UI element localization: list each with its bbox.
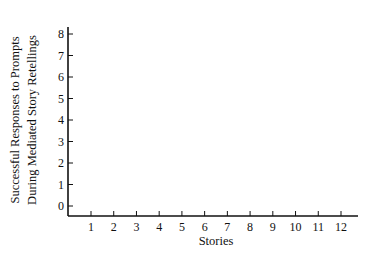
y-tick-label: 8 [58,27,64,41]
x-tick-label: 2 [111,220,117,234]
chart: Successful Responses to PromptsDuring Me… [0,0,366,254]
y-tick-label: 3 [58,135,64,149]
x-tick-label: 9 [270,220,276,234]
x-tick-label: 1 [88,220,94,234]
y-tick-label: 4 [58,113,64,127]
x-tick-label: 10 [290,220,302,234]
x-tick-label: 3 [133,220,139,234]
x-axis-ticks: 123456789101112 [88,211,347,234]
x-axis-title: Stories [199,234,234,248]
y-tick-label: 5 [58,92,64,106]
y-tick-label: 7 [58,49,64,63]
y-axis-title-line: During Mediated Story Retellings [25,35,39,205]
x-tick-label: 11 [312,220,324,234]
x-tick-label: 6 [202,220,208,234]
x-tick-label: 7 [224,220,230,234]
y-axis-title-line: Successful Responses to Prompts [8,36,22,203]
x-tick-label: 8 [247,220,253,234]
y-tick-label: 2 [58,156,64,170]
y-tick-label: 1 [58,178,64,192]
y-axis-ticks: 012345678 [58,27,73,213]
x-tick-label: 12 [335,220,347,234]
y-tick-label: 6 [58,70,64,84]
y-axis-title: Successful Responses to PromptsDuring Me… [8,35,39,205]
x-tick-label: 4 [156,220,162,234]
x-tick-label: 5 [179,220,185,234]
y-tick-label: 0 [58,199,64,213]
